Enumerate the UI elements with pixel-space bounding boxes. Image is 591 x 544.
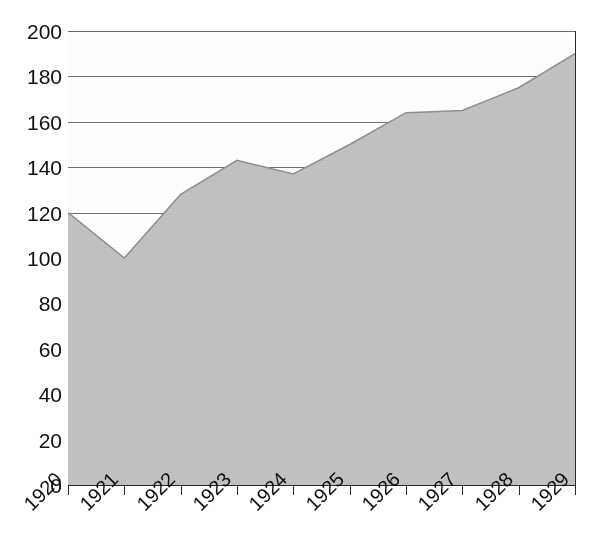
x-axis-tick-label: 1920 [20, 469, 66, 515]
x-axis-labels: 1920192119221923192419251926192719281929 [0, 0, 591, 544]
x-axis-tick-label: 1924 [245, 469, 291, 515]
x-axis-tick-label: 1925 [302, 469, 348, 515]
x-axis-tick-label: 1927 [414, 469, 460, 515]
x-axis-tick-label: 1926 [358, 469, 404, 515]
x-axis-tick-label: 1929 [527, 469, 573, 515]
x-axis-tick-label: 1928 [471, 469, 517, 515]
x-axis-tick-label: 1922 [133, 469, 179, 515]
area-chart: 200180160140120100806040200 192019211922… [0, 0, 591, 544]
x-axis-tick-label: 1923 [189, 469, 235, 515]
x-axis-tick-label: 1921 [76, 469, 122, 515]
